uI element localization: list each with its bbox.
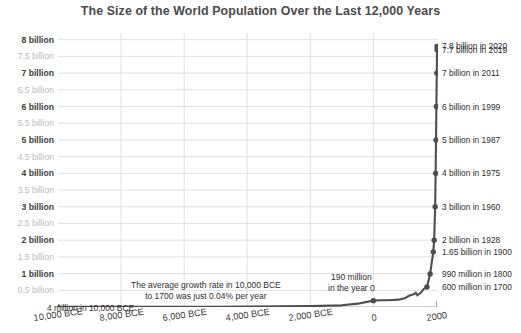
point-annotation: 600 million in 1700 (442, 283, 512, 292)
y-tick-label: 3 billion (22, 202, 54, 211)
y-axis-tick-labels: 8 billion7.5 billion7 billion6.5 billion… (0, 33, 54, 307)
annotation-start-point: 4 million in 10,000 BCE (47, 303, 134, 314)
y-tick-label: 7 billion (22, 69, 54, 78)
annotation-year-zero: 190 millionin the year 0 (328, 272, 375, 293)
population-line-plot (58, 33, 438, 307)
y-tick-label: 2 billion (22, 236, 54, 245)
point-annotation: 2 billion in 1928 (442, 236, 500, 245)
chart-title: The Size of the World Population Over th… (0, 4, 521, 18)
annotation-growth-rate-line2: to 1700 was just 0.04% per year (131, 291, 281, 302)
y-tick-label: 5 billion (22, 136, 54, 145)
data-point-annotations: 7.8 billion in 20207.7 billion in 20197 … (438, 33, 521, 307)
y-tick-label: 1.5 billion (18, 253, 54, 262)
point-annotation: 990 million in 1800 (442, 270, 512, 279)
point-annotation: 6 billion in 1999 (442, 102, 500, 111)
x-tick-label: 4,000 BCE (225, 307, 270, 323)
x-tick-label: 2000 (426, 310, 448, 323)
plot-area (58, 33, 438, 307)
y-tick-label: 2.5 billion (18, 219, 54, 228)
annotation-growth-rate-line1: The average growth rate in 10,000 BCE (131, 280, 281, 291)
y-tick-label: 6 billion (22, 102, 54, 111)
point-annotation: 4 billion in 1975 (442, 169, 500, 178)
y-tick-label: 5.5 billion (18, 119, 54, 128)
y-tick-label: 6.5 billion (18, 86, 54, 95)
y-tick-label: 1 billion (22, 269, 54, 278)
point-annotation: 5 billion in 1987 (442, 136, 500, 145)
point-annotation: 7.7 billion in 2019 (442, 45, 507, 54)
population-chart: The Size of the World Population Over th… (0, 0, 521, 333)
x-tick-label: 2,000 BCE (288, 307, 333, 323)
annotation-year-zero-line1: 190 million (328, 272, 375, 283)
y-tick-label: 8 billion (22, 35, 54, 44)
annotation-growth-rate: The average growth rate in 10,000 BCEto … (131, 280, 281, 301)
point-annotation: 3 billion in 1960 (442, 202, 500, 211)
x-tick-label: 0 (371, 312, 377, 323)
y-tick-label: 4 billion (22, 169, 54, 178)
y-tick-label: 3.5 billion (18, 186, 54, 195)
y-tick-label: 4.5 billion (18, 152, 54, 161)
annotation-year-zero-line2: in the year 0 (328, 283, 375, 294)
point-annotation: 7 billion in 2011 (442, 69, 500, 78)
point-annotation: 1.65 billion in 1900 (442, 247, 512, 256)
y-tick-label: 7.5 billion (18, 52, 54, 61)
x-tick-label: 6,000 BCE (162, 307, 207, 323)
y-tick-label: 0.5 billion (18, 286, 54, 295)
